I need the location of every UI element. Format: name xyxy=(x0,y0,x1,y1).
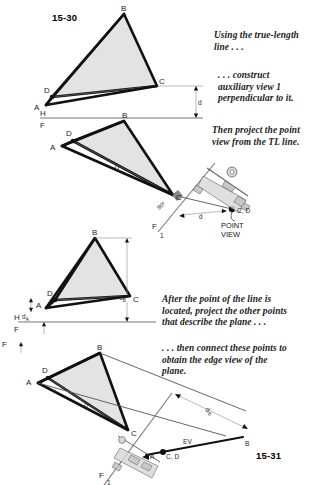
caption-2-line-1: . . . construct xyxy=(218,70,294,82)
caption-2: . . . construct auxiliary view 1 perpend… xyxy=(218,70,294,105)
view4-label-ev: EV xyxy=(183,438,192,445)
figure-canvas: B C D A d H F TL xyxy=(0,0,331,485)
caption-3: Then project the point view from the TL … xyxy=(212,125,300,148)
caption-4-line-2: located, project the other points xyxy=(162,306,287,318)
caption-4: After the point of the line is located, … xyxy=(162,294,287,329)
view3-tick-f-arrow xyxy=(42,322,46,326)
view2-label-d-dim: d xyxy=(198,213,203,220)
view3-label-f: F xyxy=(14,325,19,334)
view2-point-d xyxy=(71,139,76,144)
view4-label-db: dB xyxy=(204,406,214,417)
view2-label-d: D xyxy=(66,129,72,138)
view4-label-d: D xyxy=(42,366,48,375)
view2-label-90deg: 90º xyxy=(156,200,167,211)
view1-dim-arrow-up xyxy=(194,86,198,91)
view1-point-d xyxy=(50,95,55,100)
view3-dim-db-arrow-up xyxy=(125,238,129,243)
view2-dim-d-line xyxy=(181,211,225,215)
caption-5-line-3: plane. xyxy=(162,366,287,378)
view3-label-h: H xyxy=(14,313,20,322)
view1-label-b: B xyxy=(121,4,126,13)
caption-5: . . . then connect these points to obtai… xyxy=(162,343,287,378)
view2-label-point: POINT xyxy=(221,221,244,230)
view4-label-c: C xyxy=(131,429,137,438)
view4-point-d xyxy=(46,376,51,381)
view3-label-a: A xyxy=(36,301,42,310)
view3-label-c: C xyxy=(133,295,139,304)
view3-label-d: D xyxy=(47,289,53,298)
view4-label-b-ev: B xyxy=(245,440,250,447)
view2-label-cd: C, D xyxy=(237,207,250,214)
view2-dim-arrow-left xyxy=(179,214,185,218)
view3-group: B C D A dA dB H F xyxy=(14,228,156,334)
view4-dim-db-arrow-end xyxy=(242,424,248,429)
view2-label-view: VIEW xyxy=(221,230,240,239)
caption-3-line-1: Then project the point xyxy=(212,125,300,137)
view4-label-b: B xyxy=(97,343,102,352)
view4-label-1-bottom: 1 xyxy=(107,479,111,485)
view4-tick-top-arrow xyxy=(19,342,23,346)
view2-dim-arrow-right xyxy=(222,209,227,213)
view1-label-d-dim: d xyxy=(198,99,202,106)
caption-1: Using the true-length line . . . xyxy=(214,30,299,53)
figure-number-top: 15-30 xyxy=(52,12,77,23)
view2-label-1: 1 xyxy=(160,232,164,239)
view4-plane-triangle xyxy=(48,353,128,430)
view4-label-a: A xyxy=(26,378,32,387)
view1-label-h: H xyxy=(40,109,46,118)
view4-label-f-top: F xyxy=(2,340,7,349)
caption-1-line-1: Using the true-length xyxy=(214,30,299,42)
caption-1-line-2: line . . . xyxy=(214,42,299,54)
view2-point-view-leader xyxy=(231,212,235,221)
view4-label-f-bottom: F xyxy=(99,471,104,480)
view1-dim-arrow-down xyxy=(194,113,198,118)
view4-label-cd-ev: C, D xyxy=(166,453,179,460)
view1-label-d: D xyxy=(44,86,50,95)
view3-dim-da-arrow-down xyxy=(29,308,33,312)
caption-4-line-1: After the point of the line is xyxy=(162,294,287,306)
view1-label-c: C xyxy=(159,77,165,86)
figure-number-bottom: 15-31 xyxy=(256,450,281,461)
view1-plane-triangle xyxy=(52,14,157,97)
view2-label-c: C xyxy=(176,193,182,202)
view2-label-f: F xyxy=(152,222,157,231)
caption-2-line-3: perpendicular to it. xyxy=(218,93,294,105)
caption-5-line-1: . . . then connect these points to xyxy=(162,343,287,355)
view3-point-d xyxy=(53,298,58,303)
caption-4-line-3: that describe the plane . . . xyxy=(162,317,287,329)
view3-dim-db-arrow-down xyxy=(125,317,129,322)
view3-dim-da-arrow-up xyxy=(29,298,33,302)
view3-label-b: B xyxy=(92,228,97,237)
view3-label-da: dA xyxy=(22,313,30,322)
view2-label-b: B xyxy=(122,111,127,120)
view1-label-f: F xyxy=(40,121,45,130)
caption-3-line-2: view from the TL line. xyxy=(212,137,300,149)
view3-plane-triangle xyxy=(55,238,130,300)
view2-label-a: A xyxy=(50,143,56,152)
view2-fold-line-f1 xyxy=(158,163,215,232)
caption-5-line-2: obtain the edge view of the xyxy=(162,355,287,367)
caption-2-line-2: auxiliary view 1 xyxy=(218,82,294,94)
